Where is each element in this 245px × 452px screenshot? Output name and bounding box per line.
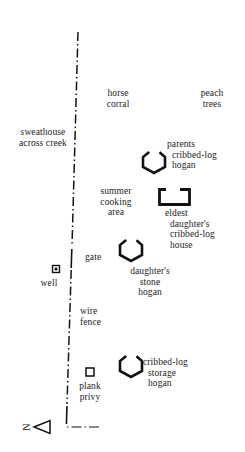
label-well: well [32,278,66,289]
north-arrow: N [21,421,100,434]
house-rectangle-outline [160,190,190,205]
label-sweathouse: sweathouse across creek [5,127,81,148]
label-gate: gate [85,252,119,263]
daughters-stone-hogan-symbol [120,240,142,261]
well-symbol [53,266,60,273]
north-letter: N [21,423,32,430]
parents-cribbed-log-hogan-symbol [143,152,165,173]
hogan-hexagon-outline [120,356,142,377]
label-daughters-stone-hogan: daughter's stone hogan [112,266,188,298]
cribbed-log-storage-hogan-symbol [120,356,142,377]
privy-square [86,368,94,376]
label-parents-hogan: parents cribbed-log hogan [167,139,245,171]
label-eldest-daughter: eldest daughter's cribbed-log house [165,208,245,250]
hogan-hexagon-outline [120,240,142,261]
wire-fence-tail [66,406,67,424]
hogan-hexagon-outline [143,152,165,173]
well-center-dot [55,268,58,271]
label-plank-privy: plank privy [64,381,116,402]
site-plan-map: N horse corral peach trees sweathous [0,0,245,452]
label-wire-fence: wire fence [80,306,124,327]
label-peach-trees: peach trees [186,88,238,109]
plank-privy-symbol [86,368,94,376]
label-summer-cooking: summer cooking area [88,186,144,218]
eldest-daughter-house-symbol [160,190,190,205]
label-storage-hogan: cribbed-log storage hogan [143,357,223,389]
label-horse-corral: horse corral [92,88,144,109]
gate-marker [71,249,72,268]
north-arrow-head [34,421,50,434]
